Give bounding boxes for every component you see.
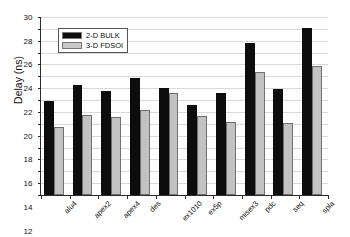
bar: [73, 85, 83, 195]
x-tick-mark: [185, 195, 186, 199]
bar: [159, 88, 169, 195]
y-tick-label: 12: [24, 226, 33, 235]
x-tick-mark: [41, 195, 42, 199]
x-tick-mark: [127, 195, 128, 199]
bar-group: [242, 17, 271, 195]
bar: [312, 66, 322, 195]
x-tick-mark: [213, 195, 214, 199]
bar: [197, 116, 207, 196]
y-tick-label: 28: [24, 36, 33, 45]
bar-group: [299, 17, 328, 195]
legend-label-2d-bulk: 2-D BULK: [86, 31, 120, 40]
bar: [283, 123, 293, 195]
bar-group: [271, 17, 300, 195]
legend-label-3d-fdsoi: 3-D FDSOI: [86, 41, 123, 50]
x-tick-mark: [70, 195, 71, 199]
x-tick-mark: [299, 195, 300, 199]
bar-group: [127, 17, 156, 195]
y-tick-label: 22: [24, 107, 33, 116]
bar: [216, 93, 226, 195]
y-axis-title: Delay (ns): [12, 30, 24, 130]
y-tick-label: 20: [24, 131, 33, 140]
x-tick-label: apex4: [121, 199, 142, 220]
bar: [255, 72, 265, 195]
legend-swatch-3d-fdsoi: [62, 42, 82, 49]
bar-group: [185, 17, 214, 195]
bar: [44, 101, 54, 195]
x-tick-label: seq: [291, 199, 306, 214]
x-tick-label: ex5p: [206, 199, 224, 217]
bar: [111, 117, 121, 195]
bar: [302, 28, 312, 195]
chart-legend: 2-D BULK 3-D FDSOI: [58, 28, 128, 53]
x-tick-mark: [242, 195, 243, 199]
bar: [187, 105, 197, 195]
bar-chart: Delay (ns) 024681012141618202224262830 a…: [0, 0, 350, 237]
legend-item: 2-D BULK: [62, 31, 123, 40]
bar: [140, 110, 150, 195]
x-tick-label: misex3: [237, 199, 260, 222]
bar: [245, 43, 255, 195]
bar: [226, 122, 236, 195]
y-tick-label: 24: [24, 84, 33, 93]
y-tick-label: 18: [24, 155, 33, 164]
bar-group: [156, 17, 185, 195]
x-tick-label: des: [147, 199, 162, 214]
legend-item: 3-D FDSOI: [62, 41, 123, 50]
bar: [101, 91, 111, 195]
bar: [82, 115, 92, 195]
x-tick-label: ex1010: [180, 199, 204, 223]
y-tick-label: 14: [24, 202, 33, 211]
y-tick-label: 26: [24, 60, 33, 69]
bar: [169, 93, 179, 195]
x-tick-label: alu4: [62, 199, 78, 215]
x-tick-label: apex2: [92, 199, 113, 220]
bar-group: [213, 17, 242, 195]
y-tick-label: 16: [24, 179, 33, 188]
x-tick-mark: [98, 195, 99, 199]
bar: [54, 127, 64, 195]
x-tick-label: pdc: [262, 199, 277, 214]
x-tick-label: spla: [320, 199, 336, 215]
y-tick-label: 30: [24, 13, 33, 22]
legend-swatch-2d-bulk: [62, 32, 82, 39]
bar: [130, 78, 140, 195]
bar: [273, 89, 283, 195]
